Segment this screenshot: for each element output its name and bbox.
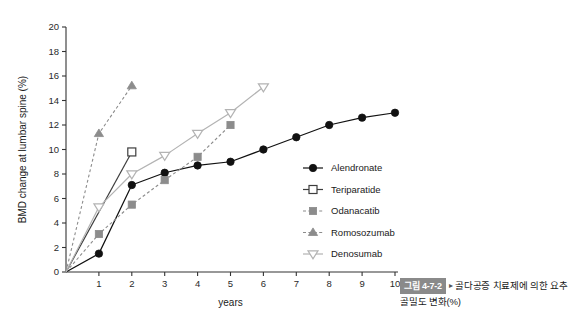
x-tick-label: 7 bbox=[294, 278, 299, 289]
data-point-marker bbox=[194, 153, 201, 160]
chart-legend: AlendronateTeriparatideOdanacatibRomosoz… bbox=[303, 162, 395, 259]
y-tick-label: 2 bbox=[54, 242, 59, 253]
x-tick-label: 9 bbox=[359, 278, 364, 289]
axis-titles: yearsBMD change at lumbar spine (%) bbox=[17, 76, 243, 308]
y-axis-title: BMD change at lumbar spine (%) bbox=[17, 76, 28, 223]
data-point-marker bbox=[260, 146, 267, 153]
y-tick-label: 6 bbox=[54, 193, 59, 204]
data-point-marker bbox=[293, 134, 300, 141]
data-point-marker bbox=[258, 84, 268, 92]
legend-label: Alendronate bbox=[331, 162, 382, 173]
figure-caption: 그림 4-7-2▸골다공증 치료제에 의한 요추골밀도 변화(%) bbox=[400, 278, 572, 308]
series-odanacatib bbox=[66, 121, 234, 272]
x-tick-label: 6 bbox=[261, 278, 266, 289]
y-tick-label: 18 bbox=[48, 46, 59, 57]
data-point-marker bbox=[326, 121, 333, 128]
y-tick-label: 12 bbox=[48, 119, 59, 130]
data-point-marker bbox=[95, 250, 102, 257]
series-line bbox=[66, 86, 132, 272]
data-point-marker bbox=[358, 114, 365, 121]
data-point-marker bbox=[226, 110, 236, 118]
x-axis: 12345678910 bbox=[66, 272, 400, 289]
caption-arrow-icon: ▸ bbox=[446, 280, 455, 292]
y-tick-label: 8 bbox=[54, 168, 59, 179]
legend-item-alendronate[interactable]: Alendronate bbox=[303, 162, 382, 173]
legend-label: Denosumab bbox=[331, 248, 382, 259]
legend-item-denosumab[interactable]: Denosumab bbox=[303, 248, 382, 259]
y-tick-label: 16 bbox=[48, 70, 59, 81]
data-point-marker bbox=[128, 181, 135, 188]
data-point-marker bbox=[160, 152, 170, 160]
legend-item-romosozumab[interactable]: Romosozumab bbox=[303, 227, 395, 238]
x-tick-label: 3 bbox=[162, 278, 167, 289]
legend-label: Teriparatide bbox=[331, 184, 381, 195]
data-point-marker bbox=[227, 158, 234, 165]
data-point-marker bbox=[309, 207, 316, 214]
x-axis-title: years bbox=[218, 297, 242, 308]
data-point-marker bbox=[194, 162, 201, 169]
data-point-marker bbox=[161, 177, 168, 184]
x-tick-label: 2 bbox=[129, 278, 134, 289]
figure-container: 02468101214161820 12345678910 Alendronat… bbox=[0, 0, 575, 321]
data-point-marker bbox=[309, 164, 316, 171]
data-point-marker bbox=[193, 130, 203, 138]
data-point-marker bbox=[391, 109, 398, 116]
data-point-marker bbox=[94, 204, 104, 212]
data-point-marker bbox=[309, 186, 317, 194]
data-point-marker bbox=[161, 169, 168, 176]
data-point-marker bbox=[227, 121, 234, 128]
y-tick-label: 20 bbox=[48, 21, 59, 32]
y-tick-label: 14 bbox=[48, 95, 59, 106]
data-point-marker bbox=[308, 228, 317, 236]
bmd-line-chart: 02468101214161820 12345678910 Alendronat… bbox=[0, 0, 575, 321]
y-tick-label: 0 bbox=[54, 266, 59, 277]
y-tick-label: 10 bbox=[48, 144, 59, 155]
x-tick-label: 10 bbox=[390, 278, 401, 289]
legend-label: Odanacatib bbox=[331, 205, 380, 216]
data-point-marker bbox=[127, 81, 136, 89]
legend-label: Romosozumab bbox=[331, 227, 395, 238]
data-point-marker bbox=[308, 251, 318, 259]
data-point-marker bbox=[95, 230, 102, 237]
legend-item-teriparatide[interactable]: Teriparatide bbox=[303, 184, 381, 195]
data-point-marker bbox=[94, 129, 103, 137]
series-layer bbox=[66, 81, 399, 272]
y-axis: 02468101214161820 bbox=[48, 21, 66, 277]
legend-item-odanacatib[interactable]: Odanacatib bbox=[303, 205, 380, 216]
x-tick-label: 4 bbox=[195, 278, 200, 289]
data-point-marker bbox=[128, 148, 136, 156]
figure-number-badge: 그림 4-7-2 bbox=[400, 278, 446, 294]
x-tick-label: 1 bbox=[96, 278, 101, 289]
data-point-marker bbox=[128, 201, 135, 208]
y-tick-label: 4 bbox=[54, 217, 59, 228]
x-tick-label: 8 bbox=[327, 278, 332, 289]
series-line bbox=[66, 125, 231, 272]
x-tick-label: 5 bbox=[228, 278, 233, 289]
series-romosozumab bbox=[66, 81, 136, 272]
